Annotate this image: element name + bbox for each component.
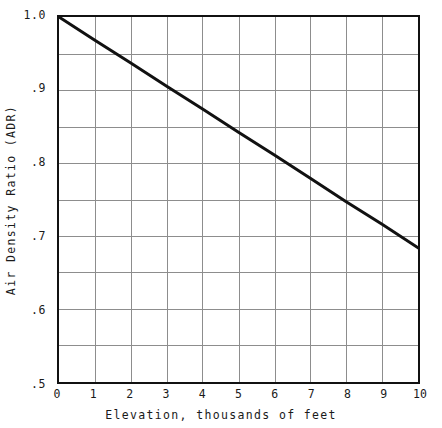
y-axis-tick-label: .8 [31,157,46,169]
series-line [59,17,418,248]
x-axis-tick-label: 2 [126,389,133,401]
x-axis-tick-label: 7 [308,389,315,401]
x-axis-tick-label: 4 [199,389,206,401]
x-axis-tick-label: 5 [235,389,242,401]
x-axis-title: Elevation, thousands of feet [0,409,442,422]
y-axis-tick-label: 1.0 [23,10,46,22]
x-axis-tick-label: 10 [413,389,427,401]
x-axis-tick-label: 0 [54,389,61,401]
x-axis-tick-label: 1 [90,389,97,401]
x-axis-tick-label: 3 [162,389,169,401]
plot-canvas [59,17,418,382]
y-axis-tick-labels: 1.0.9.8.7.6.5 [0,0,52,428]
x-axis-tick-labels: 012345678910 [0,389,442,405]
x-axis-tick-label: 6 [271,389,278,401]
grid-lines [59,17,418,382]
y-axis-tick-label: .9 [31,83,46,95]
x-axis-tick-label: 9 [380,389,387,401]
y-axis-tick-label: .6 [31,305,46,317]
x-axis-tick-label: 8 [344,389,351,401]
chart-figure: Air Density Ratio (ADR) 1.0.9.8.7.6.5 01… [0,0,442,428]
y-axis-tick-label: .7 [31,231,46,243]
data-series-line [59,17,418,248]
plot-area [57,15,420,384]
